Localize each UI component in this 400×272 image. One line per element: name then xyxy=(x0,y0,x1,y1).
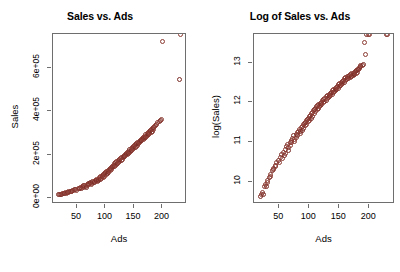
x-axis-title-left: Ads xyxy=(111,233,127,244)
x-axis-title-right: Ads xyxy=(315,233,331,244)
plot-title-right: Log of Sales vs. Ads xyxy=(200,10,400,22)
data-point xyxy=(362,40,367,45)
y-axis-tick-label: 11 xyxy=(232,118,242,162)
x-axis-tick xyxy=(308,204,309,208)
x-axis-tick xyxy=(278,204,279,208)
x-axis-tick-label: 100 xyxy=(97,211,112,221)
x-axis-tick-label: 100 xyxy=(301,211,316,221)
x-axis-tick-label: 150 xyxy=(125,211,140,221)
data-point xyxy=(286,148,291,153)
y-axis-title-right: log(Sales) xyxy=(210,72,221,162)
data-point xyxy=(268,174,273,179)
plot-area-left xyxy=(52,33,186,203)
data-point xyxy=(361,62,366,67)
data-point xyxy=(367,33,372,37)
y-axis-tick-label: 10 xyxy=(232,158,242,202)
data-point xyxy=(292,139,297,144)
plot-panel-sales-vs-ads: Sales vs. Ads 0e+002e+054e+056e+05501001… xyxy=(0,0,200,272)
x-axis-tick-label: 50 xyxy=(71,211,81,221)
y-axis-tick-label: 6e+05 xyxy=(31,44,41,88)
y-axis-tick xyxy=(248,141,252,142)
data-point xyxy=(159,117,164,122)
x-axis-tick xyxy=(133,204,134,208)
x-axis-tick xyxy=(76,204,77,208)
x-axis-tick xyxy=(368,204,369,208)
y-axis-tick xyxy=(248,62,252,63)
x-axis-tick xyxy=(161,204,162,208)
y-axis-tick xyxy=(248,101,252,102)
plot-panel-log-sales-vs-ads: Log of Sales vs. Ads 1011121350100150200… xyxy=(200,0,400,272)
x-axis-tick-label: 200 xyxy=(154,211,169,221)
y-axis-tick-label: 0e+00 xyxy=(31,174,41,218)
y-axis-title-left: Sales xyxy=(9,72,20,162)
x-axis-tick-label: 50 xyxy=(273,211,283,221)
x-axis-tick-label: 150 xyxy=(331,211,346,221)
data-point xyxy=(363,52,368,57)
plot-area-right xyxy=(253,33,394,203)
x-axis-tick xyxy=(104,204,105,208)
data-point xyxy=(160,39,165,44)
y-axis-tick xyxy=(47,154,51,155)
y-axis-tick xyxy=(47,67,51,68)
data-point xyxy=(178,33,183,37)
plot-title-left: Sales vs. Ads xyxy=(0,10,200,22)
data-point xyxy=(177,77,182,82)
data-point xyxy=(385,33,390,37)
data-point xyxy=(261,192,266,197)
y-axis-tick-label: 12 xyxy=(232,78,242,122)
y-axis-tick-label: 4e+05 xyxy=(31,87,41,131)
y-axis-tick-label: 2e+05 xyxy=(31,131,41,175)
x-axis-tick xyxy=(338,204,339,208)
data-point xyxy=(273,164,278,169)
y-axis-tick xyxy=(248,181,252,182)
data-point xyxy=(265,180,270,185)
y-axis-tick xyxy=(47,110,51,111)
y-axis-tick xyxy=(47,197,51,198)
y-axis-tick-label: 13 xyxy=(232,39,242,83)
x-axis-tick-label: 200 xyxy=(361,211,376,221)
